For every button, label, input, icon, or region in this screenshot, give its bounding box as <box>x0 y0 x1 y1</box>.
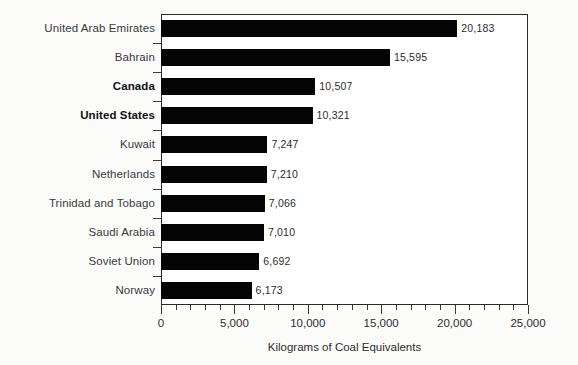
category-label: Saudi Arabia <box>0 226 155 238</box>
x-axis-minor-tick <box>484 305 485 310</box>
x-axis-major-tick <box>528 305 529 314</box>
x-axis-tick-label: 25,000 <box>510 317 545 330</box>
x-axis-minor-tick <box>176 305 177 310</box>
bar-value-label: 15,595 <box>394 52 427 63</box>
category-tick <box>153 218 162 219</box>
x-axis-title: Kilograms of Coal Equivalents <box>161 341 528 354</box>
x-axis-minor-tick <box>220 305 221 310</box>
bar <box>161 166 267 183</box>
bar <box>161 49 390 66</box>
x-axis-minor-tick <box>513 305 514 310</box>
x-axis-minor-tick <box>440 305 441 310</box>
bar-chart: United Arab EmiratesBahrainCanadaUnited … <box>0 0 578 365</box>
x-axis-minor-tick <box>249 305 250 310</box>
category-label: Canada <box>0 80 155 92</box>
category-tick <box>153 101 162 102</box>
x-axis-minor-tick <box>293 305 294 310</box>
x-axis-minor-tick <box>352 305 353 310</box>
category-label: Norway <box>0 284 155 296</box>
category-tick <box>153 130 162 131</box>
bars-layer: 20,18315,59510,50710,3217,2477,2107,0667… <box>161 14 528 305</box>
x-axis-minor-tick <box>499 305 500 310</box>
x-axis-tick-label: 15,000 <box>364 317 399 330</box>
bar-value-label: 7,066 <box>269 198 296 209</box>
x-axis-tick-label: 20,000 <box>437 317 472 330</box>
bar-value-label: 6,692 <box>263 256 290 267</box>
x-axis-minor-tick <box>264 305 265 310</box>
bar <box>161 253 259 270</box>
x-axis-minor-tick <box>469 305 470 310</box>
category-tick <box>153 247 162 248</box>
x-axis-minor-tick <box>205 305 206 310</box>
x-axis-minor-tick <box>322 305 323 310</box>
category-label: United States <box>0 109 155 121</box>
x-axis-tick-label: 5,000 <box>220 317 249 330</box>
category-tick <box>153 160 162 161</box>
bar <box>161 136 267 153</box>
bar <box>161 107 313 124</box>
x-axis-minor-tick <box>337 305 338 310</box>
x-axis-major-tick <box>161 305 162 314</box>
x-axis-major-tick <box>308 305 309 314</box>
bar-value-label: 10,507 <box>319 81 352 92</box>
category-label: Kuwait <box>0 138 155 150</box>
bar-value-label: 7,210 <box>271 169 298 180</box>
bar-value-label: 10,321 <box>317 110 350 121</box>
bar <box>161 20 457 37</box>
bar-value-label: 7,010 <box>268 227 295 238</box>
x-axis-minor-tick <box>190 305 191 310</box>
category-label: Bahrain <box>0 51 155 63</box>
category-tick <box>153 276 162 277</box>
x-axis-major-tick <box>381 305 382 314</box>
category-label: Netherlands <box>0 168 155 180</box>
bar <box>161 195 265 212</box>
category-label: Trinidad and Tobago <box>0 197 155 209</box>
bar <box>161 282 252 299</box>
category-tick <box>153 43 162 44</box>
x-axis-minor-tick <box>278 305 279 310</box>
x-axis: 05,00010,00015,00020,00025,000 <box>161 305 528 321</box>
category-label: United Arab Emirates <box>0 22 155 34</box>
x-axis-tick-label: 0 <box>158 317 164 330</box>
x-axis-minor-tick <box>425 305 426 310</box>
x-axis-minor-tick <box>411 305 412 310</box>
bar-value-label: 20,183 <box>461 23 494 34</box>
x-axis-major-tick <box>234 305 235 314</box>
category-label: Soviet Union <box>0 255 155 267</box>
x-axis-minor-tick <box>367 305 368 310</box>
category-tick <box>153 189 162 190</box>
category-tick <box>153 72 162 73</box>
bar <box>161 224 264 241</box>
bar-value-label: 6,173 <box>256 285 283 296</box>
bar-value-label: 7,247 <box>271 139 298 150</box>
x-axis-major-tick <box>455 305 456 314</box>
category-axis: United Arab EmiratesBahrainCanadaUnited … <box>0 14 155 305</box>
bar <box>161 78 315 95</box>
x-axis-minor-tick <box>396 305 397 310</box>
x-axis-tick-label: 10,000 <box>290 317 325 330</box>
